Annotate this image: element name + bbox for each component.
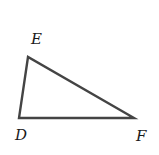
vertex-label-f: F [135, 127, 147, 145]
vertex-label-e: E [30, 30, 42, 48]
vertex-label-d: D [14, 126, 27, 144]
triangle-def [19, 57, 134, 118]
triangle-diagram: E D F [0, 0, 159, 155]
